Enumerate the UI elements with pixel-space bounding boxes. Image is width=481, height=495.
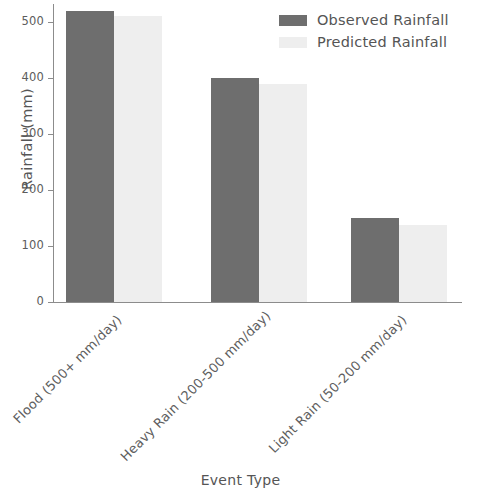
y-tick-mark [48, 246, 53, 247]
y-tick-label: 0 [4, 296, 44, 308]
legend-swatch [279, 15, 307, 26]
x-tick-label: Flood (500+ mm/day) [0, 312, 125, 464]
y-axis-title: Rainfall (mm) [19, 64, 35, 214]
bar [351, 218, 399, 302]
bar-chart: 0100200300400500 Rainfall (mm) Flood (50… [0, 0, 481, 495]
legend-label: Predicted Rainfall [317, 34, 447, 50]
y-tick-mark [48, 190, 53, 191]
y-axis-line [53, 4, 54, 302]
y-tick-mark [48, 22, 53, 23]
bar [259, 84, 307, 302]
x-tick-label: Heavy Rain (200-500 mm/day) [118, 312, 270, 464]
y-tick-mark [48, 78, 53, 79]
legend-swatch [279, 37, 307, 48]
x-axis-line [53, 302, 462, 303]
legend-label: Observed Rainfall [317, 12, 449, 28]
x-tick-label: Light Rain (50-200 mm/day) [258, 312, 410, 464]
y-tick-label: 100 [4, 240, 44, 252]
legend-item: Observed Rainfall [279, 10, 449, 30]
bar [211, 78, 259, 302]
bar [399, 225, 447, 302]
y-tick-mark [48, 302, 53, 303]
y-tick-mark [48, 134, 53, 135]
bar [114, 16, 162, 302]
y-tick-label: 500 [4, 16, 44, 28]
chart-legend: Observed RainfallPredicted Rainfall [279, 10, 449, 54]
bar [66, 11, 114, 302]
x-axis-title: Event Type [0, 472, 481, 488]
legend-item: Predicted Rainfall [279, 32, 449, 52]
